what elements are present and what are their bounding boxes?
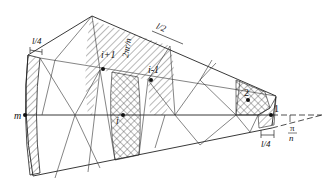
label-l2-top: l/2 <box>155 21 168 34</box>
label-angle-den: n <box>289 133 294 143</box>
label-1: 1 <box>274 103 279 114</box>
node-2 <box>246 98 250 102</box>
sector-diagram: m i+1 i i-1 2 1 l/4 l/2 l/4 2πr/n π n <box>0 0 334 183</box>
label-2: 2 <box>244 87 249 98</box>
label-i-plus-1: i+1 <box>101 49 116 60</box>
node2-crosshatched-region <box>236 80 270 115</box>
label-l4-left: l/4 <box>32 36 42 46</box>
label-i: i <box>116 115 119 126</box>
node-i-plus-1 <box>101 67 105 71</box>
i-crosshatched-strip <box>111 72 141 160</box>
label-l4-bottom: l/4 <box>261 139 271 149</box>
dimension-l4-left <box>30 47 42 55</box>
label-m: m <box>14 110 21 121</box>
dimension-l4-bottom <box>261 130 274 138</box>
node-i <box>121 113 125 117</box>
node-i-minus-1 <box>149 78 153 82</box>
node-m <box>23 113 27 117</box>
label-i-minus-1: i-1 <box>148 64 159 75</box>
label-angle-num: π <box>290 123 295 133</box>
node-1 <box>269 113 273 117</box>
lower-dashed-ray <box>272 115 322 128</box>
